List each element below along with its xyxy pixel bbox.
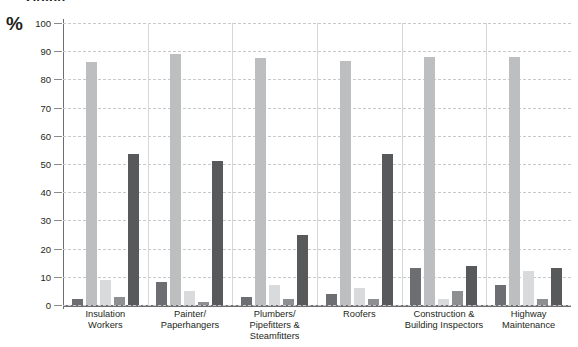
bar xyxy=(537,299,548,305)
bar xyxy=(72,299,83,305)
bar xyxy=(326,294,337,305)
gridline-0 xyxy=(63,305,571,306)
y-tick-90 xyxy=(54,51,62,52)
y-tick-20 xyxy=(54,249,62,250)
bar xyxy=(283,299,294,305)
bar-group xyxy=(402,23,487,305)
bar-group xyxy=(63,23,148,305)
bar-group-bars xyxy=(148,23,233,305)
bar xyxy=(86,62,97,305)
y-tick-label-30: 30 xyxy=(40,215,51,226)
x-axis-category-label: Roofers xyxy=(317,309,402,320)
x-axis-category-label-line: Highway xyxy=(486,309,571,320)
bar-group-bars xyxy=(232,23,317,305)
y-tick-30 xyxy=(54,220,62,221)
x-axis-category-label-line: Workers xyxy=(63,320,148,331)
x-axis-category-label-line: Roofers xyxy=(317,309,402,320)
y-tick-label-70: 70 xyxy=(40,102,51,113)
bar-chart: Graph % 0102030405060708090100 Insulatio… xyxy=(0,0,578,347)
group-separator xyxy=(486,23,487,305)
bar xyxy=(184,291,195,305)
bar xyxy=(495,285,506,305)
y-tick-label-80: 80 xyxy=(40,74,51,85)
y-tick-100 xyxy=(54,23,62,24)
bar-group-bars xyxy=(402,23,487,305)
bar-group-bars xyxy=(317,23,402,305)
y-tick-label-50: 50 xyxy=(40,159,51,170)
y-tick-label-90: 90 xyxy=(40,46,51,57)
bar xyxy=(128,154,139,305)
bar xyxy=(438,299,449,305)
x-axis-category-label-line: Construction & xyxy=(402,309,487,320)
y-tick-label-60: 60 xyxy=(40,130,51,141)
bar xyxy=(368,299,379,305)
y-tick-label-20: 20 xyxy=(40,243,51,254)
x-axis-category-label-line: Plumbers/ xyxy=(232,309,317,320)
bar xyxy=(114,297,125,305)
bar xyxy=(297,235,308,306)
y-tick-80 xyxy=(54,79,62,80)
y-tick-label-40: 40 xyxy=(40,187,51,198)
bar-group-bars xyxy=(486,23,571,305)
bar-group xyxy=(148,23,233,305)
bar xyxy=(466,266,477,305)
y-tick-label-10: 10 xyxy=(40,271,51,282)
group-separator xyxy=(317,23,318,305)
bar xyxy=(198,302,209,305)
y-tick-0 xyxy=(54,305,62,306)
bar xyxy=(523,271,534,305)
y-tick-50 xyxy=(54,164,62,165)
group-separator xyxy=(232,23,233,305)
x-axis-category-label: Construction &Building Inspectors xyxy=(402,309,487,331)
bar xyxy=(340,61,351,305)
y-tick-40 xyxy=(54,192,62,193)
bar xyxy=(354,288,365,305)
y-axis-unit-label: % xyxy=(6,14,23,33)
bar xyxy=(551,268,562,305)
group-separator xyxy=(148,23,149,305)
y-tick-70 xyxy=(54,108,62,109)
x-axis-category-label-line: Pipefitters & xyxy=(232,320,317,331)
bar xyxy=(100,280,111,305)
y-tick-label-100: 100 xyxy=(35,18,51,29)
x-axis-category-label-line: Steamfitters xyxy=(232,331,317,342)
x-axis-category-label-line: Insulation xyxy=(63,309,148,320)
y-tick-60 xyxy=(54,136,62,137)
bar xyxy=(170,54,181,305)
bar xyxy=(241,297,252,305)
bar xyxy=(156,282,167,305)
bar xyxy=(452,291,463,305)
bar-group xyxy=(232,23,317,305)
bar xyxy=(269,285,280,305)
bar-group-bars xyxy=(63,23,148,305)
bar-group xyxy=(486,23,571,305)
x-axis-category-label: Painter/Paperhangers xyxy=(148,309,233,331)
bar-group xyxy=(317,23,402,305)
bar xyxy=(509,57,520,305)
plot-area: 0102030405060708090100 xyxy=(63,23,571,305)
bar xyxy=(212,161,223,305)
x-axis-category-label: HighwayMaintenance xyxy=(486,309,571,331)
y-tick-10 xyxy=(54,277,62,278)
x-axis-category-label-line: Maintenance xyxy=(486,320,571,331)
x-axis-category-label: InsulationWorkers xyxy=(63,309,148,331)
x-axis-category-label-line: Paperhangers xyxy=(148,320,233,331)
x-axis-category-label-line: Building Inspectors xyxy=(402,320,487,331)
bar xyxy=(382,154,393,305)
group-separator xyxy=(402,23,403,305)
chart-title-clipped: Graph xyxy=(26,0,65,1)
y-tick-label-0: 0 xyxy=(46,300,51,311)
x-axis-category-label: Plumbers/Pipefitters &Steamfitters xyxy=(232,309,317,343)
bar xyxy=(255,58,266,305)
x-axis-category-label-line: Painter/ xyxy=(148,309,233,320)
bar xyxy=(424,57,435,305)
bar xyxy=(410,268,421,305)
